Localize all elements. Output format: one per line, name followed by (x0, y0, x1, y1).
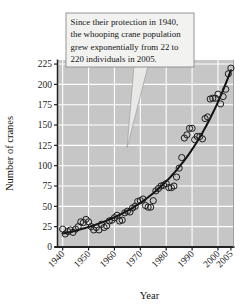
y-tick-label: 200 (38, 80, 53, 90)
x-axis-ticks: 19401950196019701980199020002005 (46, 247, 235, 269)
y-tick-label: 225 (38, 59, 53, 69)
x-tick-label: 1950 (72, 249, 93, 270)
plot-area (58, 60, 234, 247)
x-tick-label: 1990 (175, 249, 196, 270)
whooping-crane-population-chart: 0255075100125150175200225194019501960197… (0, 0, 249, 307)
callout-line: the whooping crane population (71, 29, 182, 39)
y-tick-label: 100 (38, 161, 53, 171)
y-tick-label: 0 (47, 242, 52, 252)
y-tick-label: 175 (38, 100, 53, 110)
plot-background (58, 60, 234, 247)
x-axis-title: Year (140, 290, 160, 301)
callout-line: grew exponentially from 22 to (71, 42, 180, 52)
y-tick-label: 50 (43, 202, 53, 212)
y-tick-label: 150 (38, 120, 53, 130)
x-tick-label: 1960 (98, 249, 119, 270)
y-tick-label: 25 (43, 222, 53, 232)
callout-line: 220 individuals in 2005. (71, 54, 157, 64)
x-tick-label: 1980 (150, 249, 171, 270)
y-axis-ticks: 0255075100125150175200225 (38, 59, 58, 252)
y-tick-label: 125 (38, 141, 53, 151)
callout-line: Since their protection in 1940, (71, 17, 179, 27)
y-tick-label: 75 (43, 181, 53, 191)
chart-canvas: 0255075100125150175200225194019501960197… (0, 0, 249, 307)
y-axis-title: Number of cranes (4, 116, 15, 191)
x-tick-label: 1970 (124, 249, 145, 270)
